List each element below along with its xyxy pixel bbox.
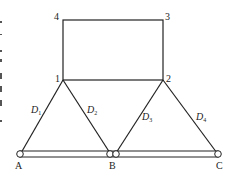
- node-label-b: B: [109, 160, 116, 171]
- member-d1: [21, 80, 63, 153]
- member-label-d3: D3: [141, 111, 152, 123]
- member-label-d2: D2: [86, 104, 97, 116]
- member-label-d4: D4: [195, 111, 206, 123]
- member-d3: [116, 80, 163, 153]
- pin-joint-b-right: [113, 151, 120, 158]
- node-label-c: C: [216, 160, 223, 171]
- upper-frame: [63, 20, 163, 80]
- node-label-1: 1: [55, 73, 60, 84]
- node-label-3: 3: [165, 11, 170, 22]
- left-edge-text-fragments: [0, 21, 2, 122]
- member-d2: [63, 80, 110, 153]
- member-d4: [163, 80, 217, 153]
- member-label-d1: D1: [30, 104, 41, 116]
- node-label-4: 4: [54, 11, 59, 22]
- node-label-a: A: [15, 160, 23, 171]
- truss-diagram: 4 3 1 2 A B C D1 D2 D3 D4: [0, 0, 238, 177]
- pin-joint-c: [215, 151, 222, 158]
- pin-joint-a: [17, 151, 24, 158]
- node-label-2: 2: [166, 73, 171, 84]
